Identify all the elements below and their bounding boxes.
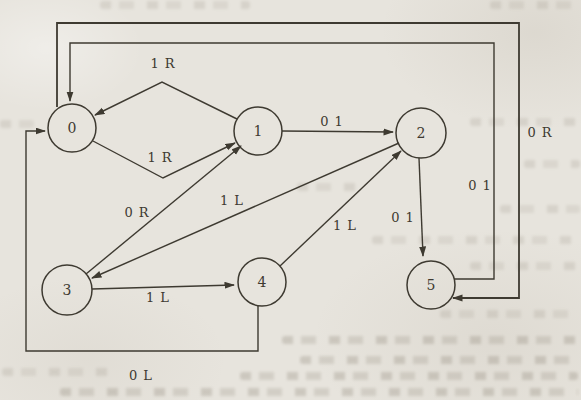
state-diagram: 0 1 2 3 4 5 1 R 1 R 0 1 0 R 1 L 1 L 1 L … [0, 0, 581, 400]
state-label-2: 2 [417, 125, 426, 141]
edge-label-4-to-2: 1 L [333, 218, 357, 233]
edge-label-0-to-1: 1 R [147, 150, 172, 165]
edge-2-to-5 [419, 158, 423, 256]
edge-label-3-to-1: 0 R [124, 205, 149, 220]
edge-label-1-to-0: 1 R [150, 56, 175, 71]
edge-5-to-0 [70, 43, 494, 279]
state-label-3: 3 [63, 282, 72, 298]
state-label-4: 4 [258, 274, 267, 290]
state-label-1: 1 [254, 123, 263, 139]
edge-1-to-0 [95, 82, 237, 119]
edge-label-4-to-0: 0 L [129, 368, 153, 383]
scanned-page: 0 1 2 3 4 5 1 R 1 R 0 1 0 R 1 L 1 L 1 L … [0, 0, 581, 400]
edge-4-to-0 [26, 131, 258, 351]
state-label-0: 0 [68, 120, 77, 136]
edge-0-to-5 [57, 23, 519, 298]
state-label-5: 5 [427, 277, 436, 293]
edge-label-2-to-5: 0 1 [391, 210, 415, 225]
edge-3-to-1 [86, 146, 241, 274]
edge-label-2-to-3: 1 L [220, 193, 244, 208]
edge-3-to-4 [92, 285, 234, 289]
edge-label-5-to-0: 0 1 [468, 178, 492, 193]
edge-label-3-to-4: 1 L [146, 290, 170, 305]
edge-label-1-to-2: 0 1 [320, 114, 344, 129]
edge-label-0-to-5: 0 R [527, 125, 552, 140]
edge-1-to-2 [282, 131, 393, 132]
